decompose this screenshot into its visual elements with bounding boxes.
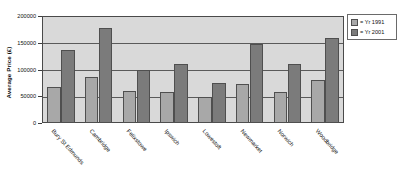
legend-item-yr-1991: = Yr 1991 [351, 17, 394, 27]
y-axis-tick-label: 0 [0, 120, 36, 126]
x-axis-tick-label: Woodbridge [315, 128, 340, 155]
x-axis-tick-label: Lowestoft [201, 128, 222, 150]
x-axis-tick-label: Cambridge [88, 128, 111, 153]
y-axis-tick-label: 150000 [0, 40, 36, 46]
y-axis-tick-label: 50000 [0, 93, 36, 99]
bar [99, 28, 113, 123]
legend-label-yr-2001: = Yr 2001 [360, 29, 384, 35]
bar [288, 64, 302, 123]
x-axis-tick-label: Newmarket [239, 128, 263, 154]
bar [61, 50, 75, 123]
bar [85, 77, 99, 123]
bar [47, 87, 61, 123]
legend-label-yr-1991: = Yr 1991 [360, 19, 384, 25]
bar [274, 92, 288, 123]
x-axis-tick-label: Bury St Edmunds [50, 128, 85, 166]
bar [236, 84, 250, 123]
bar [160, 92, 174, 123]
bar [174, 64, 188, 123]
bar [123, 91, 137, 123]
legend-item-yr-2001: = Yr 2001 [351, 27, 394, 37]
bar [250, 44, 264, 123]
bar [311, 80, 325, 123]
y-axis-tick-label: 100000 [0, 67, 36, 73]
x-axis-tick-label: Norwich [277, 128, 295, 148]
bar [137, 70, 151, 123]
legend: = Yr 1991 = Yr 2001 [347, 14, 397, 40]
x-axis-tick-label: Ipswich [164, 128, 181, 146]
bars-layer [42, 16, 344, 123]
bar [325, 38, 339, 123]
bar [198, 97, 212, 123]
y-axis-tick-label: 200000 [0, 13, 36, 19]
x-axis-tick-label: Felixstowe [126, 128, 149, 152]
bar [212, 83, 226, 123]
legend-swatch-icon-yr-1991 [351, 19, 358, 26]
bar-chart: Average Price (£) 0500001000001500002000… [0, 0, 400, 177]
legend-swatch-icon-yr-2001 [351, 29, 358, 36]
x-axis-labels: Bury St EdmundsCambridgeFelixstoweIpswic… [42, 124, 344, 176]
